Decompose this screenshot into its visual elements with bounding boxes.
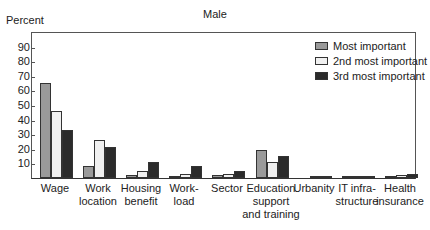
bar <box>191 166 202 178</box>
bar <box>40 83 51 178</box>
bar <box>364 176 375 178</box>
bar <box>126 175 137 178</box>
chart-title: Male <box>0 8 430 20</box>
bar <box>105 147 116 178</box>
bar <box>169 176 180 178</box>
bar <box>51 111 62 178</box>
y-tick-label: 20 <box>0 143 30 155</box>
y-tick-label: 90 <box>0 41 30 53</box>
x-tick-label: Healthinsurance <box>370 182 430 208</box>
bar <box>62 130 73 178</box>
legend-swatch-icon <box>315 42 328 50</box>
y-axis-label: Percent <box>6 14 44 26</box>
legend-swatch-icon <box>315 72 328 80</box>
bar <box>321 176 332 178</box>
bar <box>234 171 245 178</box>
legend-swatch-icon <box>315 57 328 65</box>
legend-item: Most important <box>315 38 427 53</box>
bar <box>407 174 418 178</box>
legend-label: Most important <box>333 40 406 52</box>
bar <box>223 174 234 178</box>
bar <box>396 175 407 178</box>
bar <box>267 162 278 178</box>
y-tick-label: 80 <box>0 55 30 67</box>
bar <box>256 150 267 178</box>
y-tick-label: 60 <box>0 84 30 96</box>
legend-label: 2nd most important <box>333 55 427 67</box>
bar <box>385 176 396 178</box>
legend: Most important2nd most important3rd most… <box>315 38 427 83</box>
y-tick-label: 30 <box>0 128 30 140</box>
legend-item: 3rd most important <box>315 68 427 83</box>
bar <box>83 166 94 178</box>
legend-label: 3rd most important <box>333 70 425 82</box>
bar <box>342 176 353 178</box>
bar <box>310 176 321 178</box>
y-tick-label: 50 <box>0 99 30 111</box>
bar <box>137 171 148 178</box>
y-tick-label: 10 <box>0 157 30 169</box>
y-tick-label: 70 <box>0 70 30 82</box>
bar <box>278 156 289 178</box>
legend-item: 2nd most important <box>315 53 427 68</box>
bar <box>148 162 159 178</box>
bar <box>94 140 105 178</box>
y-tick-label: 40 <box>0 114 30 126</box>
bar <box>212 175 223 178</box>
bar <box>180 174 191 178</box>
bar <box>353 176 364 178</box>
